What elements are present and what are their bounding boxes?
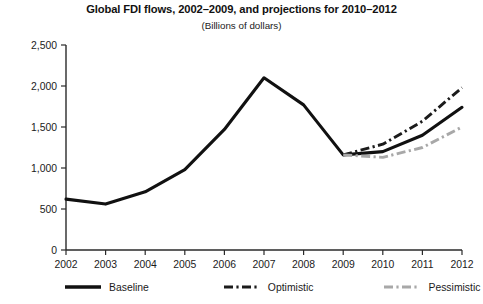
y-tick-label: 2,000 [31,81,57,92]
x-tick-label: 2009 [332,259,355,270]
y-tick-labels: 05001,0001,5002,0002,500 [31,40,57,256]
y-tick-label: 1,000 [31,163,57,174]
y-tick-label: 0 [51,245,57,256]
legend-item-pessimistic: Pessimistic [383,282,480,293]
legend-item-optimistic: Optimistic [223,282,314,293]
x-tick-labels: 2002200320042005200620072008200920102011… [54,259,473,270]
x-tick-label: 2012 [450,259,473,270]
legend-label-baseline: Baseline [109,282,149,293]
y-tick-label: 2,500 [31,40,57,51]
y-axis: 05001,0001,5002,0002,500 [31,40,66,256]
legend-swatch-optimistic [223,282,261,292]
x-tick-label: 2005 [173,259,196,270]
y-tick-marks [61,45,66,250]
legend-swatch-baseline [64,282,102,292]
y-tick-label: 500 [40,204,58,215]
legend-swatch-pessimistic [383,282,421,292]
plot-area: 05001,0001,5002,0002,500 200220032004200… [0,0,483,304]
series-line-baseline [66,78,462,204]
x-tick-label: 2008 [292,259,315,270]
x-tick-label: 2003 [94,259,117,270]
x-tick-label: 2007 [252,259,275,270]
x-axis: 2002200320042005200620072008200920102011… [54,250,473,270]
legend-label-pessimistic: Pessimistic [428,282,480,293]
data-series-group [66,78,462,204]
legend-label-optimistic: Optimistic [268,282,314,293]
x-tick-label: 2002 [54,259,77,270]
y-tick-label: 1,500 [31,122,57,133]
legend-item-baseline: Baseline [64,282,149,293]
x-tick-marks [66,250,462,255]
x-tick-label: 2010 [371,259,394,270]
x-tick-label: 2004 [134,259,157,270]
x-tick-label: 2011 [411,259,434,270]
x-tick-label: 2006 [213,259,236,270]
chart-legend: Baseline Optimistic Pessimistic [0,276,483,298]
chart-figure: Global FDI flows, 2002–2009, and project… [0,0,483,304]
